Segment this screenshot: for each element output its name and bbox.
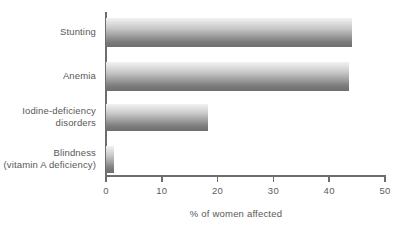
x-tick-30 [273,176,275,182]
x-tick-label-50: 50 [365,185,405,196]
x-tick-label-20: 20 [198,185,238,196]
category-label-2: Iodine-deficiency disorders [22,105,96,129]
x-tick-label-30: 30 [253,185,293,196]
category-label-3: Blindness (vitamin A deficiency) [3,147,96,171]
category-label-1: Anemia [63,70,96,82]
x-tick-0 [105,176,107,182]
x-axis-title: % of women affected [0,208,412,219]
bar-1 [106,62,349,91]
x-tick-50 [384,176,386,182]
x-tick-10 [161,176,163,182]
bar-3 [106,146,114,173]
x-axis-line [105,175,386,177]
x-tick-label-0: 0 [86,185,126,196]
x-tick-20 [217,176,219,182]
bar-chart: 01020304050 StuntingAnemiaIodine-deficie… [0,0,412,233]
x-tick-label-10: 10 [142,185,182,196]
bar-0 [106,18,352,47]
x-tick-40 [328,176,330,182]
bar-2 [106,104,208,131]
category-label-0: Stunting [60,26,96,38]
x-tick-label-40: 40 [309,185,349,196]
